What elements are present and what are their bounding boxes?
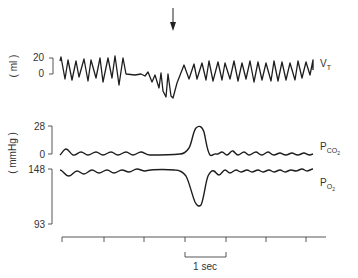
po2-trace-label: PO2: [320, 177, 335, 192]
time-scale-bar: [185, 252, 226, 257]
vt-y-axis: [49, 58, 53, 74]
gas-unit-label: ( mmHg ): [7, 132, 18, 174]
gas-y-axis: [48, 126, 52, 224]
pco2-trace-label: PCO2: [320, 141, 340, 156]
po2-trace: [60, 169, 313, 206]
pco2-tick-0: 0: [39, 149, 45, 160]
vt-tick-20: 20: [33, 52, 45, 63]
po2-tick-148: 148: [28, 164, 45, 175]
po2-tick-93: 93: [34, 219, 46, 230]
vt-unit-label: ( ml ): [8, 55, 19, 78]
vt-trace-label: VT: [320, 58, 332, 71]
pco2-tick-28: 28: [34, 121, 46, 132]
vt-trace: [60, 56, 313, 98]
respiratory-trace-figure: 20 0 ( ml ) VT 28 0 148 93 ( mmHg ) PCO2…: [0, 0, 358, 278]
event-arrow-icon: [170, 8, 176, 31]
pco2-trace: [60, 126, 313, 155]
scale-bar-label: 1 sec: [193, 261, 217, 272]
vt-tick-0: 0: [38, 68, 44, 79]
time-axis: [62, 237, 326, 242]
